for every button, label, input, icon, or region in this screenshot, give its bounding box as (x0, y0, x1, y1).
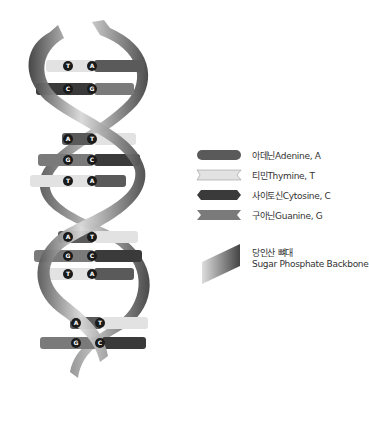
svg-text:A: A (74, 319, 79, 326)
svg-text:C: C (90, 252, 95, 259)
legend-label: 구아닌Guanine, G (252, 209, 322, 222)
guanine-swatch (196, 209, 242, 221)
legend-item-cytosine: 사이토신Cytosine, C (196, 188, 242, 202)
legend-item-thymine: 티민Thymine, T (196, 168, 242, 182)
cytosine-swatch (196, 189, 242, 201)
dna-double-helix: TACGATGCTAATGCTAATGC (0, 0, 200, 423)
legend-item-backbone: 당인산 뼈대 Sugar Phosphate Backbone (196, 240, 343, 290)
base-pair-5 (30, 175, 126, 187)
svg-text:A: A (90, 177, 95, 184)
svg-text:G: G (90, 85, 95, 92)
thymine-swatch (196, 169, 242, 181)
svg-text:G: G (74, 339, 79, 346)
svg-text:A: A (66, 135, 71, 142)
legend-item-adenine: 아데닌Adenine, A (196, 148, 242, 162)
legend-label: 티민Thymine, T (252, 169, 315, 182)
svg-text:G: G (66, 156, 71, 163)
svg-text:A: A (90, 270, 95, 277)
backbone-swatch (196, 240, 242, 286)
backbone-label-en: Sugar Phosphate Backbone (252, 259, 369, 270)
svg-text:A: A (66, 233, 71, 240)
adenine-swatch (196, 149, 242, 161)
backbone-label-ko: 당인산 뼈대 (252, 248, 293, 259)
legend-label: 아데닌Adenine, A (252, 149, 321, 162)
legend-item-guanine: 구아닌Guanine, G (196, 208, 242, 222)
svg-text:A: A (90, 62, 95, 69)
svg-text:C: C (66, 85, 71, 92)
svg-text:C: C (90, 156, 95, 163)
svg-text:G: G (66, 252, 71, 259)
svg-text:C: C (98, 339, 103, 346)
legend-label: 사이토신Cytosine, C (252, 189, 331, 202)
